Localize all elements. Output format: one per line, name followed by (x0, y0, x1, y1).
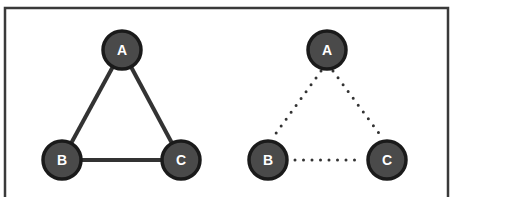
node-label: C (176, 152, 186, 168)
node-label: B (263, 152, 273, 168)
edges-dotted (274, 71, 381, 160)
node-label: B (57, 152, 67, 168)
node-label: C (382, 152, 392, 168)
node-b: B (43, 141, 81, 179)
diagram-solid-triangle: A B C (43, 31, 200, 179)
diagram-dotted-triangle: A B C (249, 31, 406, 179)
node-c: C (368, 141, 406, 179)
node-a: A (308, 31, 346, 69)
node-b: B (249, 141, 287, 179)
diagram-canvas: A B C A B C (0, 0, 510, 197)
node-c: C (162, 141, 200, 179)
edge-a-c (333, 71, 381, 136)
node-label: A (322, 42, 332, 58)
node-a: A (103, 31, 141, 69)
node-label: A (117, 42, 127, 58)
edge-a-b (274, 71, 321, 136)
